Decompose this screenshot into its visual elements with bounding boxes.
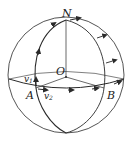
label-b: B <box>106 89 115 102</box>
v2-arrow <box>38 89 47 90</box>
radius-oa <box>36 77 66 88</box>
label-n: N <box>61 7 72 20</box>
right-arrow-2 <box>106 60 116 63</box>
right-arrow-1 <box>97 35 106 38</box>
center-point <box>65 76 67 78</box>
label-a: A <box>25 89 34 102</box>
radius-ob <box>66 77 104 88</box>
label-v2: v2 <box>44 91 53 101</box>
label-o: O <box>56 65 65 78</box>
label-v1: v1 <box>24 74 33 84</box>
velocity-arrow-meridian-top <box>52 23 55 25</box>
sphere-diagram: N O A B v1 v2 <box>0 0 131 141</box>
equator-arrow-2 <box>92 88 98 89</box>
